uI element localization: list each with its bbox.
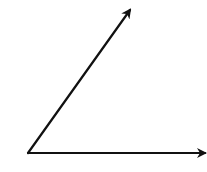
ray-upper [28,10,130,153]
angle-diagram [0,0,207,172]
